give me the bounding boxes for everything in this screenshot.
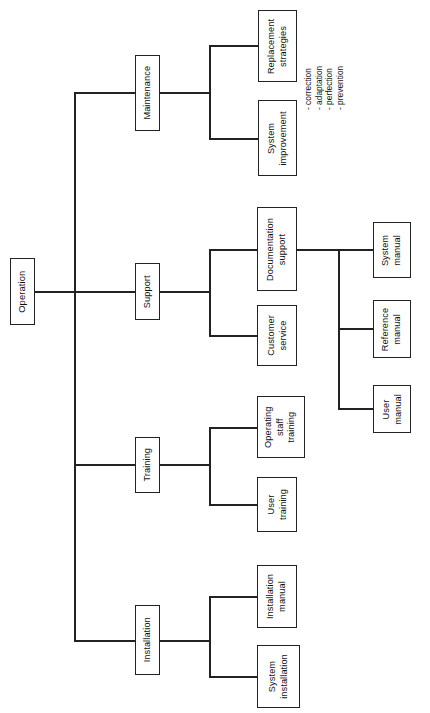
line-2: service	[277, 321, 287, 351]
connector-spine-to-maintenance	[74, 92, 136, 94]
line-2: manual	[392, 394, 402, 425]
node-system-installation[interactable]: System installation	[257, 645, 300, 708]
connector-support-bus	[209, 249, 211, 337]
node-installation-manual-label: Installation manual	[266, 574, 289, 619]
node-documentation-support[interactable]: Documentation support	[257, 207, 297, 291]
connector-support-to-documentation	[209, 249, 259, 251]
annotation-system-improvement-types: - correction - adaptation - perfection -…	[303, 110, 337, 182]
node-replacement-strategies-label: Replacement strategies	[266, 18, 289, 73]
node-maintenance[interactable]: Maintenance	[135, 55, 160, 131]
line-2: staff	[275, 418, 285, 436]
connector-support-to-customer-service	[209, 335, 259, 337]
node-system-installation-label: System installation	[267, 654, 290, 699]
connector-main-spine	[74, 92, 76, 641]
connector-training-stem	[160, 464, 210, 466]
line-2: manual	[392, 314, 402, 345]
line-2: strategies	[278, 26, 288, 67]
connector-support-stem	[160, 291, 210, 293]
connector-training-to-operating-staff	[209, 427, 259, 429]
annotation-item-prevention: - prevention	[335, 76, 346, 110]
connector-installation-bus	[209, 596, 211, 677]
node-installation[interactable]: Installation	[135, 605, 160, 675]
node-support[interactable]: Support	[135, 263, 160, 320]
node-operation[interactable]: Operation	[10, 258, 35, 325]
node-operation-label: Operation	[17, 270, 29, 312]
line-1: User	[380, 399, 390, 419]
line-2: manual	[277, 581, 287, 612]
connector-installation-to-system-installation	[209, 676, 259, 678]
line-1: System	[380, 234, 390, 265]
org-chart-diagram: Operation Maintenance Support Training I…	[0, 0, 430, 713]
connector-maintenance-bus	[209, 45, 211, 139]
connector-installation-to-installation-manual	[209, 596, 259, 598]
node-training-label: Training	[142, 448, 154, 482]
connector-training-to-user-training	[209, 504, 259, 506]
line-1: Reference	[381, 307, 391, 350]
connector-training-bus	[209, 427, 211, 505]
connector-documentation-to-user-manual	[338, 408, 374, 410]
connector-documentation-to-system-manual	[338, 249, 374, 251]
annotation-item-perfection: - perfection	[324, 76, 335, 110]
line-2: support	[277, 233, 287, 264]
connector-spine-to-support	[74, 291, 136, 293]
line-1: Operating	[264, 406, 274, 447]
node-user-training-label: User training	[266, 489, 289, 520]
annotation-item-adaptation: - adaptation	[314, 76, 325, 110]
connector-maintenance-stem	[160, 92, 210, 94]
node-system-improvement-label: System improvement	[266, 111, 289, 165]
line-2: training	[277, 489, 287, 520]
node-support-label: Support	[142, 275, 154, 308]
line-2: improvement	[278, 111, 288, 165]
annotation-item-correction: - correction	[303, 76, 314, 110]
connector-documentation-stem	[297, 249, 339, 251]
node-system-manual-label: System manual	[380, 234, 403, 265]
connector-installation-stem	[160, 640, 210, 642]
line-1: Customer	[266, 315, 276, 356]
node-reference-manual-label: Reference manual	[381, 307, 404, 350]
connector-spine-to-installation	[74, 640, 136, 642]
node-customer-service-label: Customer service	[266, 315, 289, 356]
node-user-training[interactable]: User training	[257, 477, 297, 532]
line-1: Documentation	[266, 217, 276, 280]
connector-root-to-spine	[35, 291, 75, 293]
node-reference-manual[interactable]: Reference manual	[373, 300, 411, 358]
line-1: User	[266, 495, 276, 515]
node-operating-staff-training[interactable]: Operating staff training	[257, 396, 305, 458]
node-replacement-strategies[interactable]: Replacement strategies	[258, 10, 297, 82]
node-maintenance-label: Maintenance	[142, 66, 154, 120]
node-documentation-support-label: Documentation support	[266, 217, 289, 280]
node-installation-label: Installation	[142, 617, 154, 662]
line-2: manual	[392, 235, 402, 266]
node-customer-service[interactable]: Customer service	[257, 305, 297, 366]
connector-spine-to-training	[74, 464, 136, 466]
line-1: System	[266, 122, 276, 153]
figure-caption-fragment	[388, 664, 430, 712]
node-user-manual[interactable]: User manual	[373, 385, 411, 433]
node-training[interactable]: Training	[135, 437, 160, 493]
connector-documentation-to-reference-manual	[338, 328, 374, 330]
node-operating-staff-training-label: Operating staff training	[264, 406, 299, 447]
line-1: Replacement	[266, 18, 276, 73]
connector-maintenance-to-replacement	[209, 45, 259, 47]
line-1: System	[267, 661, 277, 692]
node-system-manual[interactable]: System manual	[373, 222, 411, 278]
connector-maintenance-to-system-improvement	[209, 138, 259, 140]
node-user-manual-label: User manual	[380, 394, 403, 425]
line-3: training	[287, 412, 297, 443]
node-system-improvement[interactable]: System improvement	[258, 100, 297, 176]
line-2: installation	[279, 654, 289, 699]
node-installation-manual[interactable]: Installation manual	[257, 565, 297, 628]
line-1: Installation	[266, 574, 276, 619]
